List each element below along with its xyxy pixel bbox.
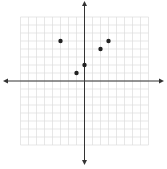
data-point (106, 39, 110, 43)
data-point (74, 71, 78, 75)
data-point (82, 63, 86, 67)
data-point (58, 39, 62, 43)
y-axis-up-arrow-icon (82, 1, 87, 6)
x-axis-left-arrow-icon (3, 79, 8, 84)
data-point (98, 47, 102, 51)
axes (3, 1, 164, 165)
coordinate-plane (0, 0, 167, 169)
y-axis-down-arrow-icon (82, 160, 87, 165)
x-axis-right-arrow-icon (159, 79, 164, 84)
